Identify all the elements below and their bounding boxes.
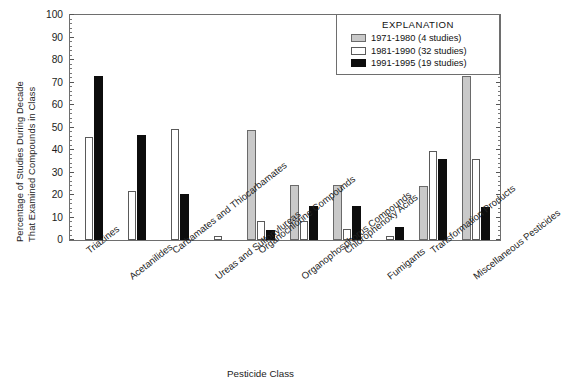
y-axis-minor-tick [70, 68, 72, 69]
y-axis-minor-tick [70, 199, 72, 200]
y-axis-major-tick [70, 194, 74, 195]
y-axis-minor-tick [498, 221, 500, 222]
y-axis-minor-tick [70, 185, 72, 186]
x-axis-category-label: Acetanilides [127, 241, 175, 282]
y-axis-minor-tick [498, 145, 500, 146]
y-axis-minor-tick [498, 167, 500, 168]
y-axis-minor-tick [498, 181, 500, 182]
bar [171, 129, 180, 240]
black-swatch [351, 59, 366, 67]
legend: EXPLANATION 1971-1980 (4 studies)1981-19… [336, 14, 500, 75]
y-axis-minor-tick [70, 19, 72, 20]
y-axis-minor-tick [70, 163, 72, 164]
y-axis-minor-tick [70, 86, 72, 87]
legend-title: EXPLANATION [343, 19, 493, 30]
y-axis-minor-tick [70, 28, 72, 29]
bar [395, 227, 404, 241]
y-axis-minor-tick [498, 100, 500, 101]
y-axis-minor-tick [70, 77, 72, 78]
y-axis-minor-tick [70, 95, 72, 96]
y-axis-major-tick [70, 172, 74, 173]
bar [214, 236, 223, 241]
legend-entry-label: 1981-1990 (32 studies) [371, 46, 467, 56]
y-axis-minor-tick [498, 230, 500, 231]
y-axis-minor-tick [70, 203, 72, 204]
y-axis-minor-tick [70, 226, 72, 227]
y-axis-minor-tick [70, 113, 72, 114]
y-axis-major-tick [496, 239, 500, 240]
y-axis-minor-tick [498, 208, 500, 209]
y-axis-minor-tick [70, 46, 72, 47]
y-axis-minor-tick [498, 113, 500, 114]
y-axis-minor-tick [70, 167, 72, 168]
bar [386, 236, 395, 241]
y-axis-major-tick [70, 82, 74, 83]
y-axis-minor-tick [498, 235, 500, 236]
y-axis-major-tick [70, 127, 74, 128]
y-axis-minor-tick [70, 181, 72, 182]
y-axis-title-line-2: That Examined Compounds in Class [26, 87, 37, 242]
bar [438, 159, 447, 240]
y-axis-minor-tick [70, 50, 72, 51]
y-axis-major-tick [496, 104, 500, 105]
y-axis-minor-tick [498, 163, 500, 164]
legend-entry: 1981-1990 (32 studies) [343, 45, 493, 57]
gray-swatch [351, 34, 366, 42]
legend-entry-label: 1971-1980 (4 studies) [371, 33, 461, 43]
y-axis-title: Percentage of Studies During Decade That… [14, 14, 50, 242]
y-axis-major-tick [496, 82, 500, 83]
y-axis-minor-tick [70, 100, 72, 101]
y-axis-minor-tick [70, 32, 72, 33]
y-axis-major-tick [70, 149, 74, 150]
y-axis-minor-tick [70, 235, 72, 236]
y-axis-minor-tick [498, 212, 500, 213]
y-axis-minor-tick [70, 230, 72, 231]
y-axis-minor-tick [498, 158, 500, 159]
y-axis-minor-tick [70, 190, 72, 191]
y-axis-minor-tick [70, 140, 72, 141]
y-axis-minor-tick [498, 86, 500, 87]
y-axis-minor-tick [70, 41, 72, 42]
y-axis-minor-tick [70, 23, 72, 24]
bar [137, 135, 146, 240]
legend-entry: 1971-1980 (4 studies) [343, 32, 493, 44]
y-axis-minor-tick [498, 91, 500, 92]
y-axis-minor-tick [70, 176, 72, 177]
y-axis-major-tick [496, 172, 500, 173]
bar [472, 159, 481, 240]
bar [128, 191, 137, 241]
y-axis-minor-tick [70, 118, 72, 119]
y-axis-minor-tick [498, 176, 500, 177]
y-axis-major-tick [70, 239, 74, 240]
y-axis-major-tick [70, 59, 74, 60]
y-axis-minor-tick [498, 140, 500, 141]
y-axis-minor-tick [70, 122, 72, 123]
y-axis-minor-tick [70, 73, 72, 74]
y-axis-major-tick [70, 217, 74, 218]
y-axis-major-tick [496, 149, 500, 150]
y-axis-minor-tick [70, 91, 72, 92]
y-axis-minor-tick [70, 154, 72, 155]
y-axis-minor-tick [498, 77, 500, 78]
y-axis-minor-tick [498, 109, 500, 110]
y-axis-minor-tick [70, 64, 72, 65]
bar [94, 76, 103, 240]
bar [85, 137, 94, 241]
y-axis-major-tick [70, 37, 74, 38]
y-axis-minor-tick [498, 131, 500, 132]
y-axis-minor-tick [70, 221, 72, 222]
y-axis-major-tick [496, 217, 500, 218]
y-axis-major-tick [70, 14, 74, 15]
legend-entry-label: 1991-1995 (19 studies) [371, 58, 467, 68]
y-axis-major-tick [496, 127, 500, 128]
y-axis-minor-tick [498, 185, 500, 186]
y-axis-minor-tick [70, 145, 72, 146]
y-axis-minor-tick [70, 212, 72, 213]
y-axis-minor-tick [498, 122, 500, 123]
y-axis-minor-tick [70, 208, 72, 209]
bar [419, 186, 428, 240]
y-axis-minor-tick [498, 95, 500, 96]
y-axis-minor-tick [70, 131, 72, 132]
y-axis-minor-tick [70, 136, 72, 137]
white-swatch [351, 47, 366, 55]
